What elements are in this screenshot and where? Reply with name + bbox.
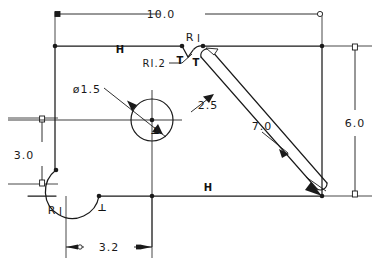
dim-label-slot-radius: RI.2 (143, 58, 166, 69)
top-notch-r1 (182, 46, 203, 57)
constraint-tangent-right: T (193, 57, 200, 68)
dim-label-notch-radius-bottom-sub: I (59, 206, 63, 217)
profile-outline (28, 46, 322, 196)
dimension-lines (42, 14, 355, 247)
dim-label-slot-offset: 2.5 (198, 99, 219, 112)
extension-lines (8, 12, 372, 258)
dim-label-slot-length: 7.0 (252, 120, 273, 133)
dim-label-notch-radius-top: R (186, 31, 195, 44)
dim-label-left-offset: 3.0 (14, 149, 35, 162)
leader-lines (169, 54, 288, 153)
constraint-horizontal-top: H (116, 44, 124, 55)
dim-label-hole-diameter: ø1.5 (73, 83, 101, 96)
constraint-perpendicular-hole: ⊥ (150, 125, 159, 136)
dim-label-notch-radius-bottom: R (48, 204, 57, 217)
sketch-points (53, 44, 325, 199)
drawing-canvas: 10.0 6.0 3.0 3.2 7.0 2.5 ø1.5 RI.2 R I R… (0, 0, 380, 270)
dim-label-notch-radius-top-sub: I (197, 33, 201, 44)
constraint-perpendicular-bottom: ⊥ (97, 202, 106, 213)
hole-centerline-extended (8, 120, 152, 247)
slot-top-arrow (206, 48, 218, 55)
technical-drawing-svg: 10.0 6.0 3.0 3.2 7.0 2.5 ø1.5 RI.2 R I R… (0, 0, 380, 270)
dim-label-width: 10.0 (147, 8, 176, 21)
dim-label-bottom-offset: 3.2 (99, 241, 120, 254)
constraint-tangent-left: T (177, 55, 184, 66)
constraint-horizontal-bottom: H (204, 182, 212, 193)
dim-label-height: 6.0 (345, 117, 366, 130)
